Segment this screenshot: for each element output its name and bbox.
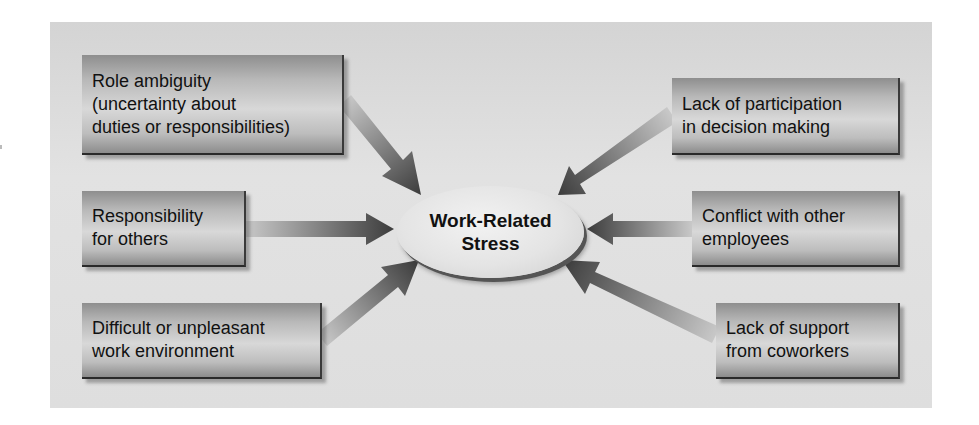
arrow-work-environment <box>317 260 419 346</box>
arrow-conflict <box>587 213 692 245</box>
factor-work-environment: Difficult or unpleasant work environment <box>82 303 322 379</box>
center-work-related-stress: Work-Related Stress <box>397 186 584 278</box>
arrow-support <box>562 260 720 343</box>
factor-line: work environment <box>92 340 310 363</box>
center-title-line1: Work-Related <box>429 209 551 232</box>
factor-support: Lack of support from coworkers <box>716 303 900 379</box>
arrow-role-ambiguity <box>339 95 421 195</box>
factor-line: duties or responsibilities) <box>92 116 332 139</box>
factor-line: Role ambiguity <box>92 70 332 93</box>
factor-line: (uncertainty about <box>92 93 332 116</box>
factor-participation: Lack of participation in decision making <box>672 78 900 155</box>
factor-line: Lack of support <box>726 317 888 340</box>
factor-line: Lack of participation <box>682 93 888 116</box>
factor-role-ambiguity: Role ambiguity (uncertainty about duties… <box>82 55 344 155</box>
factor-line: employees <box>702 228 888 251</box>
factor-conflict: Conflict with other employees <box>692 191 900 267</box>
factor-line: Difficult or unpleasant <box>92 317 310 340</box>
arrow-responsibility <box>246 213 394 245</box>
factor-line: in decision making <box>682 116 888 139</box>
factor-line: Conflict with other <box>702 205 888 228</box>
factor-line: for others <box>92 228 234 251</box>
factor-responsibility: Responsibility for others <box>82 191 246 267</box>
center-title-line2: Stress <box>461 232 519 255</box>
factor-line: from coworkers <box>726 340 888 363</box>
factor-line: Responsibility <box>92 205 234 228</box>
arrow-participation <box>558 107 677 195</box>
